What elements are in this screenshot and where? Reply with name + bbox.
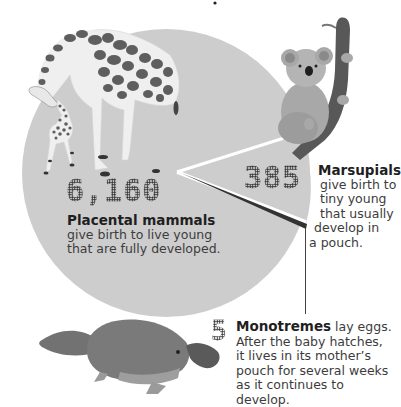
placental-label: Placental mammals give birth to live you… [67, 213, 247, 257]
marsupial-desc-line2: tiny young [318, 192, 398, 207]
placental-desc-line2: that are fully developed. [67, 242, 247, 257]
marsupial-desc-line4: develop in [314, 221, 398, 236]
marsupial-title: Marsupials [318, 163, 398, 178]
top-dot [213, 1, 216, 4]
monotreme-title-suffix: lay eggs. [331, 319, 392, 334]
monotreme-title: Monotremes [236, 318, 331, 334]
monotreme-label: Monotremes lay eggs. After the baby hatc… [236, 319, 398, 407]
monotreme-desc-line2: it lives in its mother’s [236, 349, 398, 364]
placental-title: Placental mammals [67, 213, 247, 228]
marsupial-desc-line3: that usually [318, 207, 398, 222]
marsupial-value: 385 [244, 163, 301, 193]
monotreme-desc-line1: After the baby hatches, [236, 335, 398, 350]
monotreme-desc-line4: as it continues to develop. [236, 378, 398, 407]
monotreme-desc-line3: pouch for several weeks [236, 364, 398, 379]
marsupial-desc-line5: a pouch. [309, 236, 398, 251]
monotreme-value: 5 [211, 318, 228, 344]
platypus-icon [39, 320, 219, 394]
monotreme-title-line: Monotremes lay eggs. [236, 319, 398, 335]
koala-icon [278, 18, 353, 161]
placental-desc-line1: give birth to live young [67, 228, 247, 243]
marsupial-label: Marsupials give birth to tiny young that… [318, 163, 398, 250]
placental-value: 6,160 [66, 176, 161, 206]
marsupial-desc-line1: give birth to [318, 178, 398, 193]
